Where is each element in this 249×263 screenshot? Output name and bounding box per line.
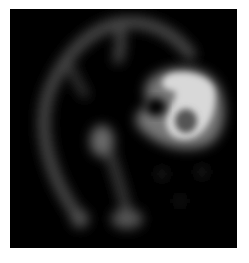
- scan-graphic: [10, 9, 237, 248]
- hotspot-dark-notch: [146, 98, 166, 116]
- hotspot-cold-center: [175, 109, 197, 133]
- brain-scan-image: [10, 9, 237, 248]
